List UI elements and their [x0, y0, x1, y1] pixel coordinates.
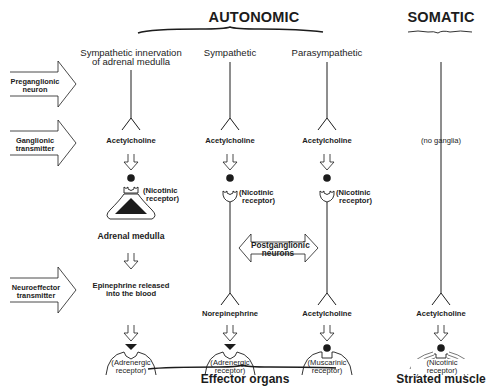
down-arrow-somatic — [434, 325, 448, 341]
effector-receptor-parasympathetic-line2: receptor) — [297, 367, 357, 375]
striated-muscle-label: Striated muscle — [392, 373, 490, 385]
row-label-preganglionic-line2: neuron — [10, 86, 60, 94]
row-label-ganglionic-line2: transmitter — [10, 145, 60, 153]
down-arrow-sympathetic-2 — [223, 325, 237, 341]
down-arrow-adrenal-2 — [124, 253, 138, 269]
down-arrow-sympathetic-1 — [223, 154, 237, 170]
ganglionic-transmitter-somatic: (no ganglia) — [406, 137, 476, 145]
sympathetic-receptor-cup — [223, 191, 237, 202]
postganglionic-neurons-label: Postganglionic neurons — [251, 242, 305, 258]
autonomic-brace — [138, 27, 323, 33]
effector-receptor-label-adrenal: (Adrenergic receptor) — [101, 359, 161, 374]
adrenal-receptor-cup — [124, 187, 138, 193]
row-label-neuroeffector: Neuroeffector transmitter — [10, 284, 62, 300]
epinephrine-line2: into the blood — [86, 290, 176, 298]
ganglion-receptor-label-adrenal: (Nicotinic receptor) — [143, 187, 179, 202]
postganglionic-fork-parasympathetic — [318, 293, 336, 305]
ganglion-receptor-adrenal-line2: receptor) — [143, 195, 179, 203]
ganglionic-transmitter-adrenal: Acetylcholine — [96, 137, 166, 145]
parasympathetic-receptor-cup — [320, 191, 334, 202]
column-heading-adrenal: Sympathetic innervation of adrenal medul… — [71, 48, 191, 66]
column-heading-sympathetic: Sympathetic — [190, 48, 270, 57]
ganglion-receptor-parasympathetic-line2: receptor) — [336, 197, 372, 205]
row-label-neuroeffector-line2: transmitter — [10, 292, 62, 300]
somatic-terminal-fork — [432, 293, 450, 305]
ganglion-fork-sympathetic — [221, 118, 239, 130]
adrenal-medulla-label: Adrenal medulla — [91, 232, 171, 241]
ganglion-fork-adrenal — [122, 118, 140, 130]
ach-dot-parasympathetic — [323, 174, 331, 182]
postganglionic-fork-sympathetic — [221, 293, 239, 305]
neuroeffector-transmitter-parasympathetic: Acetylcholine — [292, 310, 362, 318]
ganglion-fork-parasympathetic — [318, 118, 336, 130]
down-arrow-adrenal-1 — [124, 154, 138, 170]
column-heading-adrenal-line2: of adrenal medulla — [71, 57, 191, 66]
ach-dot-sympathetic — [226, 174, 234, 182]
postganglionic-line2: neurons — [251, 250, 305, 258]
effector-receptor-adrenal-line2: receptor) — [101, 367, 161, 375]
effector-organs-label: Effector organs — [190, 373, 300, 385]
ganglion-receptor-sympathetic-line2: receptor) — [239, 197, 275, 205]
neuroeffector-transmitter-sympathetic: Norepinephrine — [190, 310, 270, 318]
down-arrow-parasympathetic-2 — [320, 325, 334, 341]
down-arrow-adrenal-3 — [124, 325, 138, 341]
ach-dot-parasympathetic-effector — [323, 344, 331, 352]
somatic-title: SOMATIC — [400, 10, 482, 25]
effector-receptor-label-parasympathetic: (Muscarinic receptor) — [297, 359, 357, 374]
ganglion-receptor-label-parasympathetic: (Nicotinic receptor) — [336, 189, 372, 204]
norepinephrine-triangle — [224, 344, 236, 350]
row-label-preganglionic: Preganglionic neuron — [10, 78, 60, 94]
ganglionic-transmitter-parasympathetic: Acetylcholine — [292, 137, 362, 145]
neuroeffector-transmitter-adrenal: Epinephrine released into the blood — [86, 282, 176, 297]
autonomic-title: AUTONOMIC — [204, 10, 304, 25]
row-label-ganglionic: Ganglionic transmitter — [10, 137, 60, 153]
epinephrine-triangle — [125, 344, 137, 350]
somatic-underline — [408, 31, 472, 33]
ach-dot-adrenal — [127, 174, 135, 182]
ganglionic-transmitter-sympathetic: Acetylcholine — [195, 137, 265, 145]
neuroeffector-transmitter-somatic: Acetylcholine — [406, 310, 476, 318]
ganglion-receptor-label-sympathetic: (Nicotinic receptor) — [239, 189, 275, 204]
down-arrow-parasympathetic-1 — [320, 154, 334, 170]
ach-dot-somatic — [437, 344, 445, 352]
column-heading-parasympathetic: Parasympathetic — [282, 48, 372, 57]
